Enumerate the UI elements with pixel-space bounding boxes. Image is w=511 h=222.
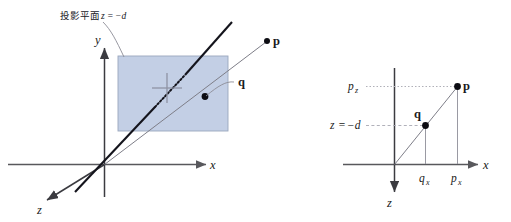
left-x-axis-label: x [209, 158, 216, 172]
right-point-p-label: p [463, 79, 470, 93]
figure-svg: x y z p q 投影平面 z = −d [0, 0, 511, 222]
left-point-p-dot [264, 38, 270, 44]
pz-tick-label-subscript: z [354, 86, 359, 95]
left-diagram: x y z p q 投影平面 z = −d [8, 10, 280, 217]
projection-plane-rect [118, 56, 228, 131]
plane-annotation-leader [103, 22, 124, 57]
qx-tick-label-subscript: x [425, 178, 430, 187]
right-point-q-dot [422, 122, 429, 129]
left-thick-ray-lower [75, 107, 155, 192]
right-diagram: p q x z p z z = −d q x p x [329, 68, 489, 210]
px-tick-label-subscript: x [457, 178, 462, 187]
left-point-q-dot [202, 93, 209, 100]
figure-root: x y z p q 投影平面 z = −d [0, 0, 511, 222]
right-plane-label-equals: = [338, 119, 346, 131]
plane-annotation-equals: = [107, 11, 113, 21]
plane-annotation-cjk-text: 投影平面 [60, 10, 100, 21]
right-point-p-dot [454, 83, 461, 90]
right-x-axis-label: x [482, 158, 489, 172]
right-plane-label-var: z [329, 119, 335, 131]
right-point-q-label: q [414, 107, 421, 121]
qx-tick-label: q [419, 172, 425, 185]
pz-tick-label: p [347, 80, 354, 93]
left-y-axis-label: y [93, 33, 101, 47]
left-point-p-label: p [273, 34, 280, 48]
left-z-axis-label: z [36, 203, 42, 217]
left-point-q-label: q [238, 75, 245, 89]
right-z-axis-label: z [386, 196, 392, 210]
right-plane-label-value: −d [347, 119, 361, 131]
plane-annotation-var: z [100, 11, 105, 21]
plane-annotation-value: −d [115, 11, 126, 21]
px-tick-label: p [450, 172, 457, 185]
